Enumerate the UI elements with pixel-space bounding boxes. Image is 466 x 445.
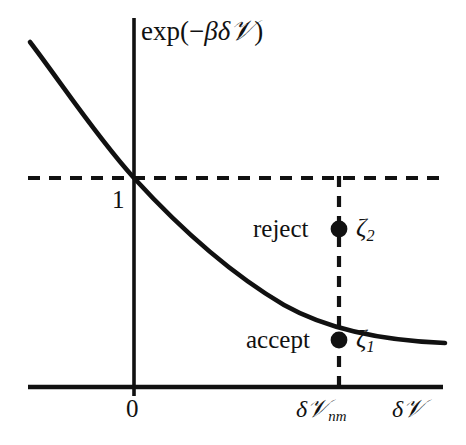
zeta2-subscript: 2 (367, 227, 375, 244)
y-axis-label: exp(−βδ𝒱) (141, 16, 263, 45)
reject-annotation-label: reject (253, 216, 309, 241)
y-axis-label-prefix: exp(− (141, 16, 204, 46)
nm-subscript: nm (328, 408, 347, 424)
zeta2-point-marker (331, 221, 348, 238)
zeta1-subscript: 1 (367, 338, 375, 355)
metropolis-acceptance-figure: exp(−βδ𝒱) 1 0 δ𝒱nm δ𝒱 reject accept ζ2 ζ… (0, 0, 466, 445)
y-axis-label-suffix: ) (254, 16, 263, 46)
y-tick-label-one: 1 (112, 187, 125, 212)
accept-annotation-label: accept (246, 327, 310, 352)
zeta-symbol: ζ (356, 213, 367, 242)
zeta2-label: ζ2 (356, 215, 375, 244)
delta-symbol: δ (392, 396, 403, 422)
zeta-symbol: ζ (356, 324, 367, 353)
zeta1-point-marker (331, 332, 348, 349)
delta-symbol: δ (296, 396, 307, 422)
x-tick-label-delta-v-nm: δ𝒱nm (296, 396, 347, 424)
zeta1-label: ζ1 (356, 326, 375, 355)
script-v-symbol: 𝒱 (307, 393, 328, 423)
delta-symbol: δ (218, 16, 231, 46)
script-v-symbol: 𝒱 (403, 393, 424, 423)
plot-canvas (0, 0, 466, 445)
x-axis-label: δ𝒱 (392, 396, 424, 421)
exponential-decay-curve (30, 42, 445, 343)
script-v-symbol: 𝒱 (230, 13, 254, 47)
x-tick-label-zero: 0 (126, 396, 139, 421)
beta-symbol: β (204, 16, 217, 46)
